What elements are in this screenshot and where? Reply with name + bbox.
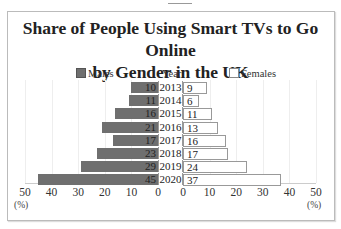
female-bar: 17 (183, 148, 228, 160)
male-value-label: 10 (145, 81, 156, 93)
left-axis-unit: (%) (14, 200, 28, 210)
male-value-label: 17 (145, 134, 156, 146)
male-value-label: 21 (145, 121, 156, 133)
gridline (263, 80, 264, 183)
male-bar: 45 (38, 174, 158, 185)
females-swatch-icon (229, 68, 239, 78)
x-tick-right: 30 (257, 186, 269, 198)
year-label: 2019 (158, 160, 183, 172)
female-value-label: 24 (187, 161, 198, 173)
female-value-label: 37 (187, 174, 198, 186)
female-value-label: 16 (187, 135, 198, 147)
female-value-label: 17 (187, 148, 198, 160)
female-value-label: 6 (187, 95, 193, 107)
x-tick-left: 40 (46, 186, 58, 198)
male-bar: 10 (131, 82, 158, 93)
female-bar: 9 (183, 82, 207, 94)
x-tick-right: 20 (230, 186, 242, 198)
right-axis-unit: (%) (307, 200, 321, 210)
x-tick-right: 10 (204, 186, 216, 198)
gridline (25, 80, 26, 183)
male-bar: 21 (102, 122, 158, 133)
x-tick-left: 20 (99, 186, 111, 198)
title-line-1: Share of People Using Smart TVs to Go On… (0, 17, 341, 61)
female-bar: 16 (183, 135, 226, 147)
male-value-label: 29 (145, 160, 156, 172)
year-label: 2015 (158, 107, 183, 119)
gridline (78, 80, 79, 183)
gridline (289, 80, 290, 183)
female-bar: 13 (183, 122, 218, 134)
female-bar: 24 (183, 161, 247, 173)
male-value-label: 11 (145, 94, 156, 106)
year-label: 2020 (158, 173, 183, 185)
year-label: 2018 (158, 147, 183, 159)
female-bar: 6 (183, 95, 199, 107)
males-swatch-icon (76, 68, 86, 78)
male-bar: 11 (129, 95, 158, 106)
legend-females: Females (229, 68, 276, 79)
year-label: 2013 (158, 81, 183, 93)
year-label: 2014 (158, 94, 183, 106)
x-tick-right: 40 (284, 186, 296, 198)
year-label: 2017 (158, 134, 183, 146)
legend-year: Year (162, 68, 181, 79)
x-tick-left: 50 (19, 186, 31, 198)
female-value-label: 9 (187, 82, 193, 94)
male-value-label: 16 (145, 107, 156, 119)
male-bar: 29 (81, 161, 158, 172)
male-bar: 23 (97, 148, 158, 159)
top-mark (168, 0, 192, 4)
x-tick-right: 0 (180, 186, 186, 198)
female-value-label: 11 (187, 108, 198, 120)
female-value-label: 13 (187, 122, 198, 134)
year-label: 2016 (158, 121, 183, 133)
male-bar: 17 (113, 135, 158, 146)
x-tick-left: 0 (155, 186, 161, 198)
male-value-label: 23 (145, 147, 156, 159)
female-bar: 37 (183, 174, 281, 186)
x-tick-left: 30 (72, 186, 84, 198)
x-tick-right: 50 (310, 186, 322, 198)
male-bar: 16 (115, 108, 158, 119)
x-tick-left: 10 (126, 186, 138, 198)
gridline (316, 80, 317, 183)
legend-males: Males (76, 68, 114, 79)
male-value-label: 45 (145, 173, 156, 185)
female-bar: 11 (183, 108, 212, 120)
gridline (52, 80, 53, 183)
